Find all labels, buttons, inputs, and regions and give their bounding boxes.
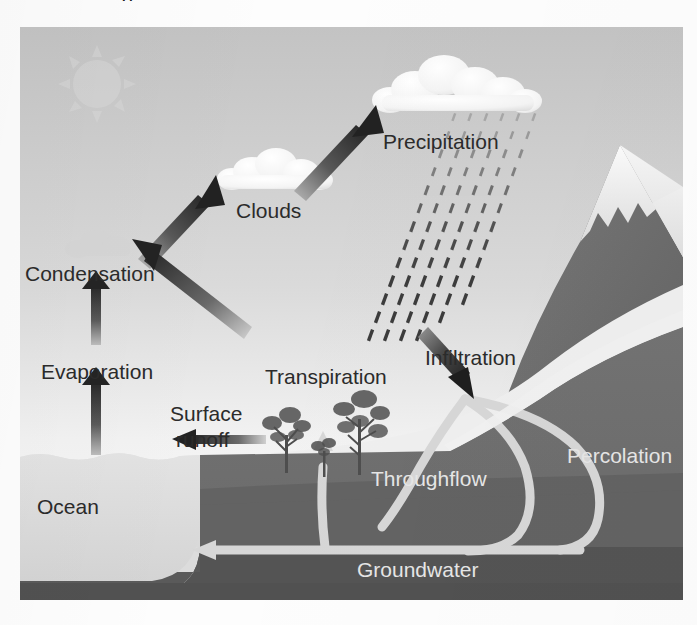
water-cycle-diagram: Precipitation Clouds Condensation Evapor… <box>20 27 683 600</box>
sun-icon <box>58 45 136 123</box>
label-infiltration: Infiltration <box>425 346 516 369</box>
label-transpiration: Transpiration <box>265 365 387 388</box>
label-clouds: Clouds <box>236 199 301 222</box>
label-precipitation: Precipitation <box>383 130 499 153</box>
label-condensation: Condensation <box>25 262 155 285</box>
label-ocean: Ocean <box>37 495 99 518</box>
label-evaporation: Evaporation <box>41 360 153 383</box>
throughflow-up-pipe <box>322 467 325 547</box>
label-throughflow: Throughflow <box>371 467 487 490</box>
page-canvas: g <box>0 0 697 625</box>
cropped-title-remnant: g <box>122 0 182 1</box>
label-groundwater: Groundwater <box>357 558 478 581</box>
label-surface-runoff-line1: Surface <box>170 402 242 425</box>
label-surface-runoff-line2: runoff <box>176 428 229 451</box>
label-percolation: Percolation <box>567 444 672 467</box>
